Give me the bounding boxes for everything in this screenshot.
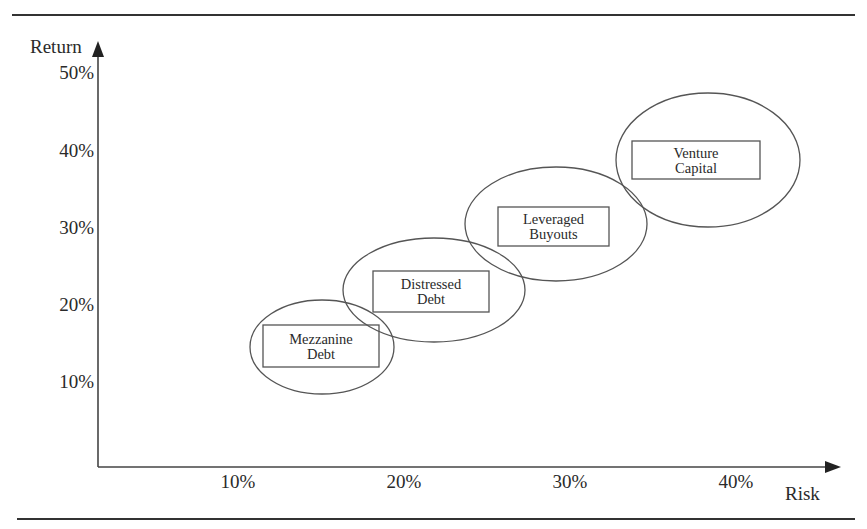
x-tick-label: 20% [387, 471, 422, 492]
y-tick-label: 20% [59, 294, 94, 315]
bubble-label-line: Capital [675, 160, 717, 176]
asset-class-bubbles: MezzanineDebtDistressedDebtLeveragedBuyo… [250, 93, 800, 394]
bubble-mezzanine-debt: MezzanineDebt [250, 300, 394, 394]
bubble-distressed-debt: DistressedDebt [343, 238, 525, 342]
x-tick-label: 10% [221, 471, 256, 492]
y-tick-labels: 10% 20% 30% 40% 50% [59, 62, 94, 392]
x-axis-title: Risk [785, 483, 820, 504]
bubble-label-line: Distressed [401, 276, 462, 292]
bubble-venture-capital: VentureCapital [616, 93, 800, 227]
bubble-leveraged-buyouts: LeveragedBuyouts [465, 167, 647, 281]
bubble-label-line: Mezzanine [289, 331, 353, 347]
y-axis-title: Return [30, 36, 82, 57]
bubble-label-line: Debt [417, 291, 445, 307]
y-tick-label: 50% [59, 62, 94, 83]
bubble-label-line: Venture [673, 145, 718, 161]
risk-return-chart: Return Risk 10% 20% 30% 40% 50% 10% 20% … [0, 0, 867, 529]
x-tick-label: 40% [719, 471, 754, 492]
y-tick-label: 40% [59, 140, 94, 161]
x-axis-arrow-icon [825, 461, 841, 473]
figure: Return Risk 10% 20% 30% 40% 50% 10% 20% … [0, 0, 867, 529]
y-axis-arrow-icon [92, 41, 104, 57]
bubble-label-line: Leveraged [523, 211, 585, 227]
x-tick-labels: 10% 20% 30% 40% [221, 471, 754, 492]
y-tick-label: 30% [59, 217, 94, 238]
x-tick-label: 30% [553, 471, 588, 492]
y-tick-label: 10% [59, 371, 94, 392]
bubble-label-line: Buyouts [529, 226, 578, 242]
bubble-label-line: Debt [307, 346, 335, 362]
